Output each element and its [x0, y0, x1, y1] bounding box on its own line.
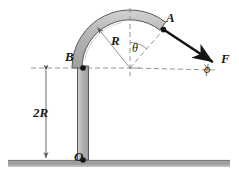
figure-canvas: O B A 2R R θ ϕ F — [0, 0, 239, 182]
node-dot-center — [129, 67, 131, 69]
node-dot-a — [161, 27, 167, 33]
label-angle-theta: θ — [132, 42, 138, 54]
label-radius-r: R — [111, 34, 120, 47]
mechanics-diagram — [0, 0, 239, 182]
ground-surface — [8, 160, 230, 167]
label-force-f: F — [221, 52, 230, 65]
node-dot-b — [80, 65, 86, 71]
label-angle-phi: ϕ — [204, 63, 210, 75]
label-point-a: A — [166, 11, 175, 24]
label-point-o: O — [74, 150, 83, 163]
label-point-b: B — [65, 50, 74, 63]
tube-vertical-segment — [78, 66, 89, 160]
label-dimension-2r: 2R — [33, 106, 48, 119]
force-vector-arrow — [164, 30, 213, 62]
